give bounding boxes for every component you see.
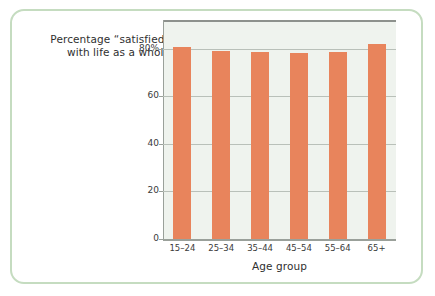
y-axis-tick-label: 20: [125, 186, 159, 195]
bar: [251, 52, 269, 239]
y-axis-tick-mark: [159, 239, 163, 240]
x-axis-tick-label: 65+: [352, 243, 402, 253]
x-axis-baseline: [163, 239, 396, 241]
bar: [212, 51, 230, 239]
bar: [173, 47, 191, 239]
x-axis-label: Age group: [163, 260, 396, 272]
bar: [290, 53, 308, 239]
y-axis-tick-label: 60: [125, 91, 159, 100]
y-axis-tick-label: 0: [125, 234, 159, 243]
y-axis-tick-label: 80%: [125, 44, 159, 53]
chart-figure: Percentage “satisfied” with life as a wh…: [0, 0, 435, 296]
bar-series: [163, 20, 396, 239]
y-axis-tick-labels: 020406080%: [123, 0, 159, 296]
y-axis-tick-label: 40: [125, 139, 159, 148]
bar: [329, 52, 347, 239]
bar: [368, 44, 386, 239]
